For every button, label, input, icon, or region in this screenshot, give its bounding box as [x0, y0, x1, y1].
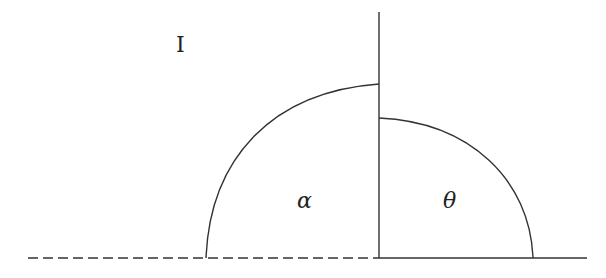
theta-label: θ	[443, 188, 456, 213]
diagram-svg: I α θ	[0, 0, 606, 278]
alpha-label: α	[297, 188, 312, 213]
left-arc	[206, 84, 379, 258]
diagram-canvas: I α θ	[0, 0, 606, 278]
region-i-label: I	[176, 32, 185, 57]
